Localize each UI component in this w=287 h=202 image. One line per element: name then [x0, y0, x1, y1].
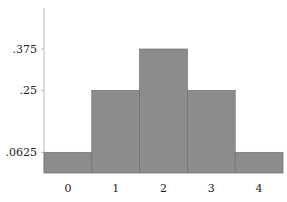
y-axis-ticks: .0625.25.375: [6, 43, 45, 159]
y-tick-label: .375: [13, 43, 38, 56]
bar-4: [235, 152, 283, 173]
histogram-chart: .0625.25.375 01234: [0, 0, 287, 202]
x-tick-label: 2: [160, 182, 167, 195]
bar-0: [44, 152, 92, 173]
bar-1: [92, 90, 140, 173]
bars: [44, 49, 283, 173]
x-tick-label: 1: [112, 182, 119, 195]
y-tick-label: .25: [20, 84, 38, 97]
bar-3: [187, 90, 235, 173]
x-tick-label: 0: [64, 182, 71, 195]
x-tick-label: 4: [256, 182, 263, 195]
y-tick-label: .0625: [6, 146, 38, 159]
bar-2: [140, 49, 188, 173]
x-tick-label: 3: [208, 182, 215, 195]
x-axis-ticks: 01234: [64, 182, 262, 195]
